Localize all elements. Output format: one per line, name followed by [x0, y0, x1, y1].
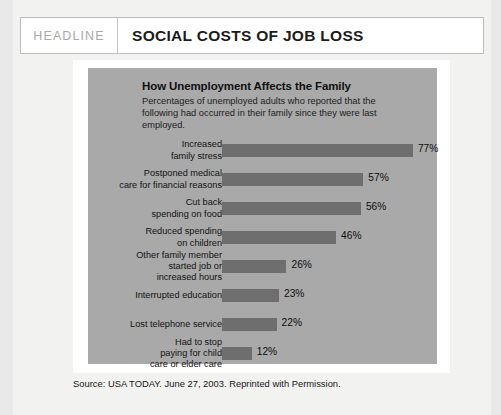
page-title: SOCIAL COSTS OF JOB LOSS — [118, 18, 483, 53]
bar-track: 26% — [222, 260, 286, 273]
bar-category-label: Postponed medical care for financial rea… — [87, 168, 222, 190]
bar-track: 12% — [222, 347, 252, 360]
bar-track: 57% — [222, 173, 363, 186]
bar-fill — [222, 260, 286, 273]
bar-category-label: Lost telephone service — [87, 319, 222, 330]
bar-category-label: Cut back spending on food — [87, 197, 222, 219]
bar-category-label: Increased family stress — [87, 139, 222, 161]
chart-panel: How Unemployment Affects the Family Perc… — [88, 68, 437, 364]
source-credit: Source: USA TODAY. June 27, 2003. Reprin… — [73, 378, 341, 389]
bar-value-label: 77% — [418, 143, 438, 154]
headline-kicker-label: HEADLINE — [21, 18, 118, 53]
bar-value-label: 23% — [284, 288, 304, 299]
bar-track: 46% — [222, 231, 336, 244]
bar-track: 56% — [222, 202, 361, 215]
bar-category-label: Other family member started job or incre… — [87, 250, 222, 284]
bar-fill — [222, 289, 279, 302]
bar-fill — [222, 318, 277, 331]
bar-fill — [222, 173, 363, 186]
bar-fill — [222, 144, 413, 157]
page-sheet: HEADLINE SOCIAL COSTS OF JOB LOSS How Un… — [13, 0, 491, 415]
bar-fill — [222, 202, 361, 215]
bar-fill — [222, 231, 336, 244]
bar-value-label: 57% — [368, 172, 388, 183]
bar-value-label: 22% — [282, 317, 302, 328]
bar-track: 22% — [222, 318, 277, 331]
bar-track: 23% — [222, 289, 279, 302]
bar-value-label: 46% — [341, 230, 361, 241]
bar-value-label: 56% — [366, 201, 386, 212]
bar-category-label: Interrupted education — [87, 290, 222, 301]
bar-chart: Increased family stress77%Postponed medi… — [88, 68, 437, 364]
bar-value-label: 12% — [257, 346, 277, 357]
bar-category-label: Had to stop paying for child care or eld… — [87, 337, 222, 371]
bar-track: 77% — [222, 144, 413, 157]
bar-fill — [222, 347, 252, 360]
bar-value-label: 26% — [291, 259, 311, 270]
bar-category-label: Reduced spending on children — [87, 226, 222, 248]
headline-bar: HEADLINE SOCIAL COSTS OF JOB LOSS — [20, 17, 484, 54]
